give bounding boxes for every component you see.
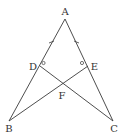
angle-mark-d (42, 61, 45, 64)
label-f: F (59, 90, 66, 101)
geometry-diagram: A D E F B C (0, 0, 123, 134)
label-e: E (91, 61, 98, 72)
label-a: A (60, 6, 69, 17)
label-c: C (110, 123, 118, 134)
label-d: D (29, 61, 37, 72)
label-b: B (5, 123, 12, 134)
angle-mark-e (80, 61, 83, 64)
segment-ac (65, 19, 113, 121)
